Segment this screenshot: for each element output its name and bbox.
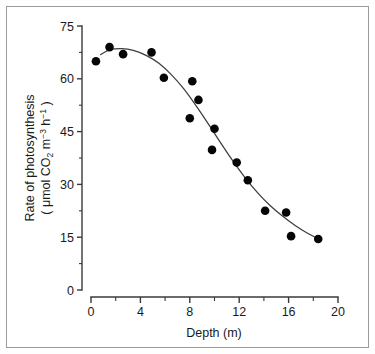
y-title-superscript-2: −1 bbox=[38, 109, 48, 119]
x-tick-label: 20 bbox=[331, 305, 345, 319]
data-point bbox=[244, 176, 253, 185]
x-tick-label: 8 bbox=[186, 305, 193, 319]
y-title-superscript-1: −3 bbox=[38, 129, 48, 139]
data-point bbox=[186, 114, 195, 123]
data-points bbox=[92, 43, 323, 243]
y-axis-title-line1: Rate of photosynthesis bbox=[23, 94, 37, 221]
scatter-plot: 01530456075 048121620 Depth (m) Rate of … bbox=[0, 0, 375, 354]
data-point bbox=[232, 158, 241, 167]
data-point bbox=[287, 232, 296, 241]
x-axis-tick-labels: 048121620 bbox=[88, 305, 345, 319]
data-point bbox=[147, 48, 156, 57]
y-axis-ticks bbox=[77, 26, 82, 290]
data-point bbox=[261, 207, 270, 216]
y-axis-title: Rate of photosynthesis ( μmol CO2 m−3 h−… bbox=[23, 94, 55, 221]
y-title-mid-2: h bbox=[39, 119, 53, 129]
y-tick-label: 75 bbox=[60, 20, 74, 34]
figure-container: 01530456075 048121620 Depth (m) Rate of … bbox=[0, 0, 375, 354]
data-point bbox=[208, 146, 217, 155]
data-point bbox=[210, 124, 219, 133]
data-point bbox=[188, 77, 197, 86]
x-tick-label: 0 bbox=[88, 305, 95, 319]
x-axis-ticks bbox=[91, 297, 338, 303]
y-tick-label: 30 bbox=[60, 178, 74, 192]
x-axis-title: Depth (m) bbox=[186, 326, 242, 340]
y-axis-title-line2: ( μmol CO2 m−3 h−1 ) bbox=[38, 101, 55, 214]
x-tick-label: 12 bbox=[232, 305, 246, 319]
y-tick-label: 15 bbox=[60, 231, 74, 245]
data-point bbox=[105, 43, 114, 52]
data-point bbox=[92, 57, 101, 66]
y-title-suffix: ) bbox=[39, 101, 53, 109]
y-tick-label: 60 bbox=[60, 72, 74, 86]
data-point bbox=[119, 50, 128, 59]
y-tick-label: 45 bbox=[60, 125, 74, 139]
data-point bbox=[194, 96, 203, 105]
x-tick-label: 4 bbox=[137, 305, 144, 319]
y-tick-label: 0 bbox=[67, 284, 74, 298]
y-axis-tick-labels: 01530456075 bbox=[60, 20, 74, 298]
x-tick-label: 16 bbox=[282, 305, 296, 319]
data-point bbox=[314, 235, 323, 244]
data-point bbox=[160, 73, 169, 82]
y-title-mid: m bbox=[39, 139, 53, 153]
y-title-prefix: ( μmol CO bbox=[39, 157, 53, 214]
data-point bbox=[282, 208, 291, 217]
